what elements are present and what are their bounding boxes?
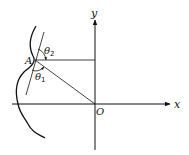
origin-label: O: [96, 106, 104, 117]
point-a-label: A: [24, 55, 32, 66]
theta2-label: θ2: [44, 45, 55, 58]
theta1-label: θ1: [35, 71, 46, 84]
x-axis-label: x: [174, 98, 181, 111]
geometry-diagram: x y O A θ2 θ1: [0, 0, 189, 155]
theta2-subscript: 2: [50, 50, 54, 58]
theta1-subscript: 1: [41, 76, 45, 84]
y-axis-label: y: [90, 7, 98, 20]
